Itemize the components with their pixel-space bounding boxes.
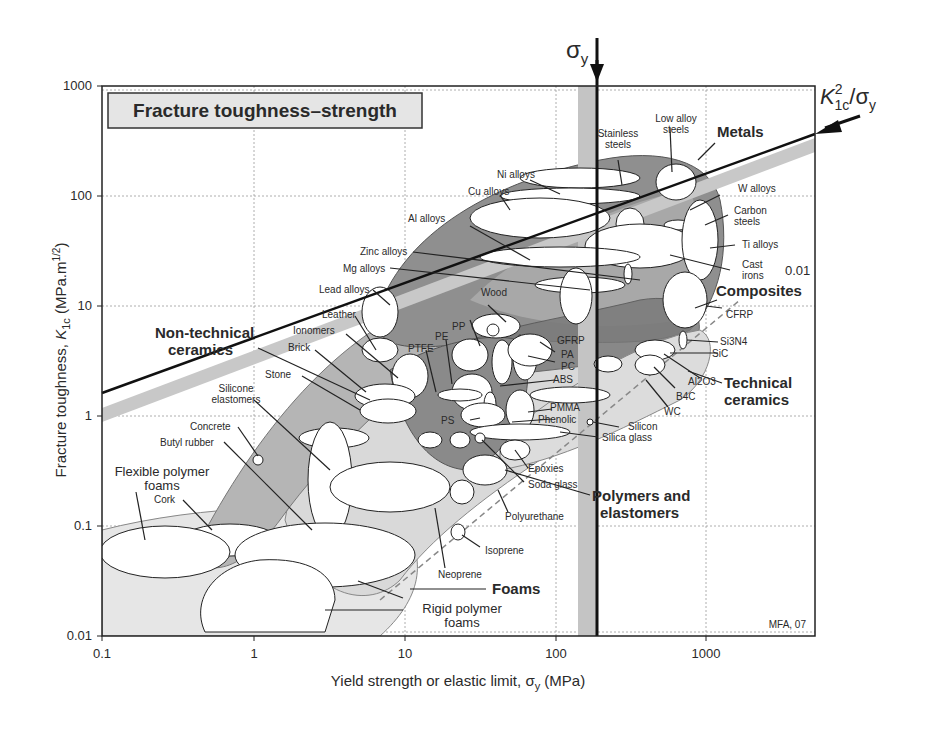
svg-text:PMMA: PMMA: [550, 402, 580, 413]
svg-text:elastomers: elastomers: [600, 504, 679, 521]
svg-text:Cork: Cork: [154, 494, 176, 505]
svg-text:100: 100: [70, 188, 92, 203]
svg-text:Concrete: Concrete: [190, 421, 231, 432]
svg-text:Al alloys: Al alloys: [408, 213, 445, 224]
svg-text:Technical: Technical: [724, 374, 792, 391]
svg-text:steels: steels: [605, 139, 631, 150]
dashed-value-label: 0.01: [785, 263, 810, 278]
kratio-arrow-icon: [815, 120, 842, 134]
svg-text:PE: PE: [435, 331, 449, 342]
svg-text:1000: 1000: [692, 646, 721, 661]
svg-text:Si3N4: Si3N4: [720, 336, 748, 347]
svg-text:PA: PA: [561, 349, 574, 360]
svg-text:PTFE: PTFE: [408, 343, 434, 354]
svg-text:10: 10: [78, 298, 92, 313]
svg-text:Neoprene: Neoprene: [438, 569, 482, 580]
svg-text:Phenolic: Phenolic: [538, 414, 576, 425]
svg-text:Cast: Cast: [742, 259, 763, 270]
sigma-y-arrow-icon: [590, 64, 604, 82]
svg-text:WC: WC: [664, 406, 681, 417]
svg-text:Stainless: Stainless: [598, 128, 639, 139]
svg-text:Butyl rubber: Butyl rubber: [160, 437, 215, 448]
svg-text:Zinc alloys: Zinc alloys: [360, 246, 407, 257]
svg-text:Ti alloys: Ti alloys: [742, 239, 778, 250]
svg-text:Silica glass: Silica glass: [602, 432, 652, 443]
svg-text:Carbon: Carbon: [734, 205, 767, 216]
svg-text:Ionomers: Ionomers: [293, 325, 335, 336]
svg-text:Soda glass: Soda glass: [528, 479, 577, 490]
svg-text:Foams: Foams: [492, 580, 540, 597]
svg-text:steels: steels: [734, 216, 760, 227]
x-axis-title: Yield strength or elastic limit, σy (MPa…: [331, 672, 585, 692]
svg-text:Silicone: Silicone: [218, 383, 253, 394]
svg-text:Non-technical: Non-technical: [155, 324, 254, 341]
ashby-chart: Fracture toughness–strength σy K21c/σy 0…: [0, 0, 932, 731]
svg-text:PP: PP: [452, 321, 466, 332]
svg-text:PS: PS: [441, 415, 455, 426]
svg-text:Cu alloys: Cu alloys: [468, 186, 509, 197]
svg-text:0.1: 0.1: [93, 646, 111, 661]
svg-text:Wood: Wood: [481, 287, 507, 298]
svg-text:GFRP: GFRP: [557, 335, 585, 346]
svg-text:elastomers: elastomers: [212, 394, 261, 405]
svg-text:Epoxies: Epoxies: [528, 463, 564, 474]
svg-text:CFRP: CFRP: [726, 309, 754, 320]
svg-text:B4C: B4C: [676, 391, 695, 402]
svg-text:Ni alloys: Ni alloys: [497, 169, 535, 180]
svg-text:ceramics: ceramics: [168, 341, 233, 358]
svg-text:SiC: SiC: [712, 348, 728, 359]
kratio-label: K21c/σy: [820, 81, 876, 113]
svg-text:Al2O3: Al2O3: [688, 376, 716, 387]
svg-text:10: 10: [398, 646, 412, 661]
svg-text:Leather: Leather: [322, 309, 357, 320]
svg-text:irons: irons: [742, 270, 764, 281]
svg-text:Flexible polymer: Flexible polymer: [115, 464, 210, 479]
credit-label: MFA, 07: [769, 619, 807, 630]
svg-text:Isoprene: Isoprene: [485, 545, 524, 556]
svg-text:1: 1: [250, 646, 257, 661]
y-axis-title: Fracture toughness, K1c (MPa.m1/2): [51, 243, 72, 478]
x-axis: 0.1 1 10 100 1000: [93, 646, 721, 661]
svg-text:ceramics: ceramics: [724, 391, 789, 408]
chart-title: Fracture toughness–strength: [133, 100, 397, 121]
svg-text:Lead alloys: Lead alloys: [319, 284, 370, 295]
svg-text:Composites: Composites: [716, 282, 802, 299]
svg-text:Metals: Metals: [717, 123, 764, 140]
svg-text:Brick: Brick: [288, 342, 311, 353]
svg-text:Rigid polymer: Rigid polymer: [422, 601, 502, 616]
svg-text:0.1: 0.1: [74, 518, 92, 533]
svg-text:0.01: 0.01: [67, 628, 92, 643]
sigma-y-label: σy: [566, 36, 589, 67]
svg-text:Stone: Stone: [265, 369, 292, 380]
svg-text:PC: PC: [561, 361, 575, 372]
svg-text:100: 100: [545, 646, 567, 661]
svg-text:1: 1: [85, 408, 92, 423]
svg-text:Low alloy: Low alloy: [655, 113, 697, 124]
svg-text:foams: foams: [144, 478, 180, 493]
svg-text:1000: 1000: [63, 78, 92, 93]
svg-text:Mg alloys: Mg alloys: [343, 263, 385, 274]
svg-text:Polyurethane: Polyurethane: [505, 511, 564, 522]
svg-text:steels: steels: [663, 124, 689, 135]
svg-text:ABS: ABS: [553, 374, 573, 385]
svg-text:Silicon: Silicon: [628, 421, 657, 432]
svg-text:Polymers and: Polymers and: [592, 487, 690, 504]
svg-text:W alloys: W alloys: [738, 183, 776, 194]
svg-text:foams: foams: [444, 615, 480, 630]
